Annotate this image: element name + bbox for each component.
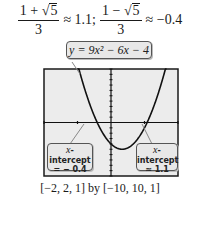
left-intercept-callout: x-intercept = − 0.4: [47, 143, 93, 171]
window-settings: [−2, 2, 1] by [−10, 10, 1]: [0, 181, 200, 196]
right-intercept-callout: x-intercept ≈ 1.1: [136, 143, 178, 171]
function-label: y = 9x² − 6x − 4: [66, 41, 152, 59]
